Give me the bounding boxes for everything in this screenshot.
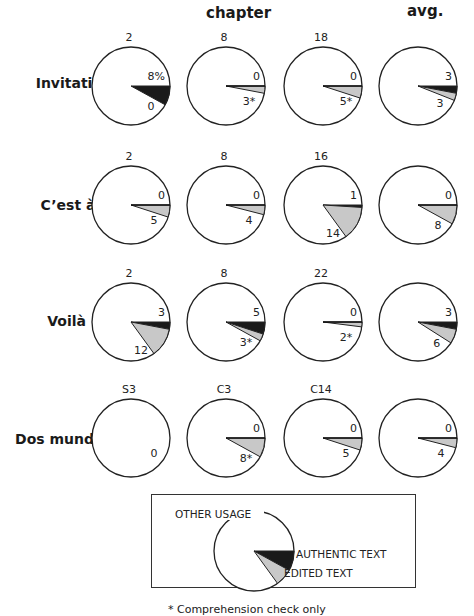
legend-label-authentic-text: AUTHENTIC TEXT [296,548,387,560]
footnote: * Comprehension check only [168,603,326,616]
legend-label-edited-text: EDITED TEXT [284,567,353,579]
legend-label-other-usage: OTHER USAGE [175,508,251,520]
pie [214,511,294,591]
